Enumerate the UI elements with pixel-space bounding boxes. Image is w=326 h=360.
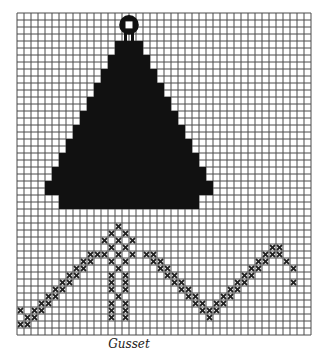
tree-block: [185, 195, 199, 209]
tree-block: [94, 111, 108, 125]
gusset-pattern-chart: [0, 0, 326, 360]
tree-block: [136, 139, 150, 153]
tree-block: [66, 167, 80, 181]
tree-block: [59, 153, 73, 167]
tree-block: [143, 125, 157, 139]
tree-block: [136, 167, 150, 181]
tree-block: [87, 181, 101, 195]
tree-block: [59, 181, 73, 195]
tree-block: [45, 181, 59, 195]
tree-block: [150, 167, 164, 181]
tree-block: [80, 111, 94, 125]
tree-block: [115, 181, 129, 195]
tree-block: [129, 69, 143, 83]
tree-block: [101, 69, 115, 83]
tree-block: [66, 139, 80, 153]
tree-block: [108, 139, 122, 153]
tree-block: [108, 167, 122, 181]
tree-block: [185, 153, 199, 167]
tree-block: [143, 97, 157, 111]
tree-block: [150, 83, 164, 97]
tree-block: [192, 167, 206, 181]
tree-block: [171, 181, 185, 195]
tree-block: [87, 195, 101, 209]
tree-block: [136, 111, 150, 125]
tree-block: [87, 97, 101, 111]
tree-block: [129, 97, 143, 111]
tree-block: [157, 153, 171, 167]
tree-block: [143, 181, 157, 195]
tree-block: [94, 83, 108, 97]
tree-block: [115, 97, 129, 111]
tree-block: [101, 195, 115, 209]
tree-block: [122, 167, 136, 181]
tree-stem: [124, 34, 127, 41]
tree-block: [157, 195, 171, 209]
tree-block: [108, 111, 122, 125]
tree-block: [101, 125, 115, 139]
tree-block: [80, 139, 94, 153]
tree-block: [87, 153, 101, 167]
tree-block: [129, 181, 143, 195]
tree-block: [171, 125, 185, 139]
tree-block: [143, 69, 157, 83]
tree-block: [122, 55, 136, 69]
tree-block: [115, 153, 129, 167]
tree-block: [185, 181, 199, 195]
tree-stem: [131, 34, 134, 41]
tree-block: [129, 125, 143, 139]
tree-block: [157, 125, 171, 139]
tree-block: [178, 167, 192, 181]
tree-block: [122, 83, 136, 97]
tree-block: [164, 167, 178, 181]
tree-block: [143, 153, 157, 167]
tree-block: [52, 167, 66, 181]
tree-block: [87, 125, 101, 139]
tree-block: [59, 195, 73, 209]
tree-block: [115, 69, 129, 83]
tree-block: [101, 153, 115, 167]
tree-block: [164, 139, 178, 153]
tree-block: [164, 111, 178, 125]
tree-block: [129, 41, 143, 55]
tree-block: [115, 125, 129, 139]
tree-block: [73, 153, 87, 167]
tree-block: [171, 195, 185, 209]
tree-motif: [45, 15, 213, 209]
tree-block: [73, 125, 87, 139]
tree-block: [157, 181, 171, 195]
tree-block: [108, 83, 122, 97]
tree-block: [122, 111, 136, 125]
tree-block: [108, 55, 122, 69]
tree-block: [157, 97, 171, 111]
tree-block: [136, 55, 150, 69]
tree-block: [171, 153, 185, 167]
tree-block: [178, 139, 192, 153]
figure-caption: Gusset: [0, 337, 258, 351]
tree-block: [101, 181, 115, 195]
tree-block: [101, 97, 115, 111]
tree-block: [73, 195, 87, 209]
tree-block: [129, 195, 143, 209]
tree-block: [80, 167, 94, 181]
tree-block: [129, 153, 143, 167]
tree-block: [199, 181, 213, 195]
tree-block: [122, 139, 136, 153]
tree-block: [143, 195, 157, 209]
tree-block: [150, 111, 164, 125]
tree-block: [115, 195, 129, 209]
tree-block: [136, 83, 150, 97]
tree-block: [94, 139, 108, 153]
tree-block: [115, 41, 129, 55]
tree-block: [73, 181, 87, 195]
tree-block: [94, 167, 108, 181]
tree-block: [150, 139, 164, 153]
